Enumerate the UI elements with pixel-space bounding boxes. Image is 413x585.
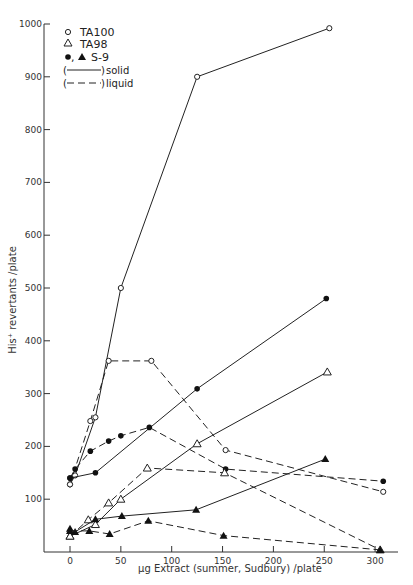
legend-open-circle-icon — [65, 29, 70, 34]
open-triangle-marker — [117, 495, 125, 502]
filled-circle-marker — [88, 448, 94, 454]
series-line — [70, 459, 325, 532]
data-series — [66, 26, 386, 553]
filled-circle-marker — [93, 470, 99, 476]
series-ta98-solid — [66, 368, 331, 539]
open-circle-marker — [106, 358, 111, 363]
legend-paren-open-liquid: ( — [63, 78, 67, 89]
x-axis-title: µg Extract (summer, Sudbury) /plate — [138, 563, 322, 574]
open-triangle-marker — [323, 368, 331, 375]
legend-label-ta98: TA98 — [79, 38, 107, 51]
legend-open-triangle-icon — [64, 39, 72, 46]
legend-paren-close-liquid: ) — [101, 78, 105, 89]
open-circle-marker — [118, 285, 123, 290]
filled-circle-marker — [194, 386, 200, 392]
open-circle-marker — [67, 482, 72, 487]
legend-label-liquid: liquid — [106, 78, 133, 89]
filled-circle-marker — [147, 425, 153, 431]
open-circle-marker — [327, 26, 332, 31]
legend-filled-triangle-icon — [78, 53, 86, 60]
y-axis-title: His⁺ revertants /plate — [7, 246, 18, 354]
filled-circle-marker — [67, 475, 73, 481]
open-circle-marker — [195, 74, 200, 79]
legend-paren-open-solid: ( — [63, 65, 67, 76]
legend: TA100 TA98 , S-9 ( ) solid ( ) liquid — [63, 26, 133, 89]
open-circle-marker — [93, 415, 98, 420]
filled-circle-marker — [72, 466, 78, 472]
series-ta98-s-9-liquid — [66, 517, 384, 553]
y-tick-label: 500 — [25, 283, 42, 293]
open-triangle-marker — [193, 440, 201, 447]
open-triangle-marker — [143, 464, 151, 471]
open-circle-marker — [88, 418, 93, 423]
series-ta100-solid — [67, 26, 332, 487]
legend-label-s9: S-9 — [91, 51, 109, 64]
filled-circle-marker — [323, 296, 329, 302]
legend-label-solid: solid — [106, 65, 129, 76]
series-line — [70, 28, 329, 484]
series-ta98-liquid — [66, 464, 384, 553]
y-tick-label: 800 — [25, 125, 42, 135]
y-tick-label: 900 — [25, 72, 42, 82]
legend-filled-circle-icon — [65, 54, 71, 60]
y-tick-label: 600 — [25, 230, 42, 240]
filled-circle-marker — [380, 478, 386, 484]
y-tick-label: 1000 — [19, 19, 42, 29]
open-circle-marker — [223, 447, 228, 452]
mutagenicity-line-chart: 1002003004005006007008009001000050100150… — [0, 0, 413, 585]
x-tick-label: 0 — [67, 556, 73, 566]
legend-comma: , — [71, 51, 75, 64]
x-tick-label: 50 — [115, 556, 127, 566]
filled-circle-marker — [118, 433, 124, 439]
y-tick-label: 700 — [25, 177, 42, 187]
y-tick-label: 100 — [25, 494, 42, 504]
y-tick-label: 400 — [25, 336, 42, 346]
open-circle-marker — [149, 358, 154, 363]
y-tick-label: 300 — [25, 389, 42, 399]
filled-triangle-marker — [192, 506, 200, 513]
filled-triangle-marker — [321, 455, 329, 462]
axes: 1002003004005006007008009001000050100150… — [19, 19, 398, 566]
open-circle-marker — [381, 489, 386, 494]
filled-triangle-marker — [144, 517, 152, 524]
series-ta100-s-9-solid — [67, 296, 329, 481]
filled-circle-marker — [106, 438, 112, 444]
y-tick-label: 200 — [25, 441, 42, 451]
x-tick-label: 300 — [367, 556, 384, 566]
legend-paren-close-solid: ) — [101, 65, 105, 76]
